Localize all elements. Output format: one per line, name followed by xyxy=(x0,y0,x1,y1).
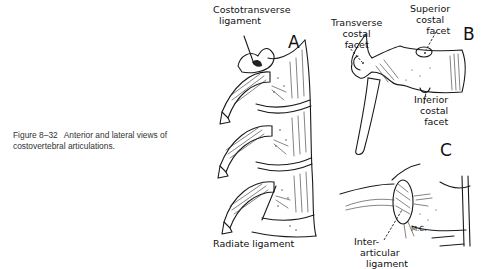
panel-a-letter: A xyxy=(288,32,300,52)
label-line: articular xyxy=(354,247,408,258)
label-line: ligament xyxy=(213,15,291,26)
panel-c-drawing xyxy=(340,164,470,246)
panel-a-drawing xyxy=(218,36,316,237)
label-line: Inferior xyxy=(410,94,448,105)
label-transverse-costal-facet: Transverse costal facet xyxy=(331,17,382,50)
label-interarticular-ligament: Inter- articular ligament xyxy=(354,236,408,269)
label-line: costal xyxy=(331,28,382,39)
label-superior-costal-facet: Superior costal facet xyxy=(410,3,450,36)
artist-signature: M.C. xyxy=(411,224,426,235)
label-line: costal xyxy=(410,14,450,25)
label-line: facet xyxy=(331,39,382,50)
label-line: Inter- xyxy=(354,236,408,247)
label-line: facet xyxy=(410,25,450,36)
label-costotransverse-ligament: Costotransverse ligament xyxy=(213,4,291,26)
label-line: Transverse xyxy=(331,17,382,28)
panel-c-letter: C xyxy=(440,140,452,160)
label-line: ligament xyxy=(354,258,408,269)
label-line: Superior xyxy=(410,3,450,14)
label-line: Costotransverse xyxy=(213,4,291,15)
label-line: facet xyxy=(410,116,448,127)
panel-b-letter: B xyxy=(463,24,475,44)
label-radiate-ligament: Radiate ligament xyxy=(213,238,294,249)
label-line: costal xyxy=(410,105,448,116)
label-inferior-costal-facet: Inferior costal facet xyxy=(410,94,448,127)
